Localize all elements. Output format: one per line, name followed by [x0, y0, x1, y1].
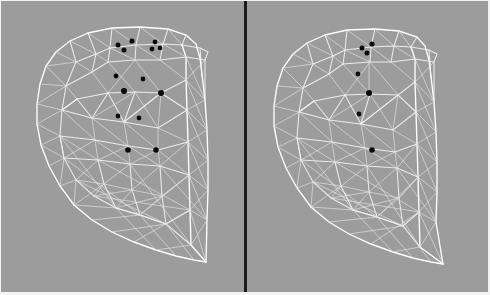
- landmark-dot: [116, 114, 121, 119]
- landmark-dot: [125, 147, 131, 153]
- landmark-dot: [158, 46, 163, 51]
- figure-canvas: [0, 0, 490, 295]
- panel-divider: [244, 0, 247, 295]
- landmark-dot: [360, 46, 365, 51]
- landmark-dot: [121, 88, 127, 94]
- landmark-dot: [137, 116, 142, 121]
- landmark-dot: [366, 90, 372, 96]
- landmark-dot: [365, 51, 370, 56]
- landmark-dot: [369, 147, 375, 153]
- frame-top-edge: [0, 0, 490, 1]
- landmark-dot: [150, 47, 155, 52]
- landmark-dot: [158, 90, 164, 96]
- landmark-dot: [153, 147, 159, 153]
- landmark-dot: [122, 48, 127, 53]
- landmark-dot: [356, 72, 361, 77]
- landmark-dot: [153, 40, 158, 45]
- landmark-dot: [116, 43, 121, 48]
- mesh-figure-svg: [0, 0, 490, 295]
- landmark-dot: [369, 41, 374, 46]
- landmark-dot: [141, 77, 146, 82]
- landmark-dot: [114, 74, 119, 79]
- landmark-dot: [129, 38, 134, 43]
- landmark-dot: [357, 112, 362, 117]
- frame-left-edge: [0, 0, 1, 295]
